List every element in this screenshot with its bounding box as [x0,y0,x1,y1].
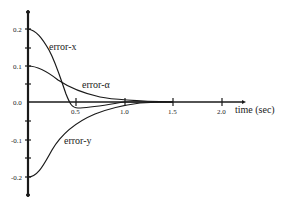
y-tick-label-0.0: 0.0 [13,99,22,107]
x-tick-label-1.0: 1.0 [120,108,129,116]
x-axis-label: time (sec) [235,104,275,116]
error-alpha-label: error-α [82,79,111,90]
error-y-label: error-y [64,135,92,146]
error-y-curve [28,102,173,177]
y-tick-label-0.2: 0.2 [13,26,22,34]
y-tick-label-neg-0.1: -0.1 [11,137,23,145]
y-tick-label-neg-0.2: -0.2 [11,174,23,182]
x-tick-label-1.5: 1.5 [168,108,177,116]
y-axis [25,11,31,197]
x-tick-label-2.0: 2.0 [217,108,226,116]
y-tick-labels: 0.2 0.1 0.0 -0.1 -0.2 [11,26,23,182]
error-x-label: error-x [49,41,77,52]
error-vs-time-chart: 0.2 0.1 0.0 -0.1 -0.2 0.5 1.0 1.5 2.0 ti… [0,0,286,202]
y-tick-label-0.1: 0.1 [13,63,22,71]
curve-labels: error-x error-α error-y [49,41,111,146]
x-tick-label-0.5: 0.5 [71,108,80,116]
